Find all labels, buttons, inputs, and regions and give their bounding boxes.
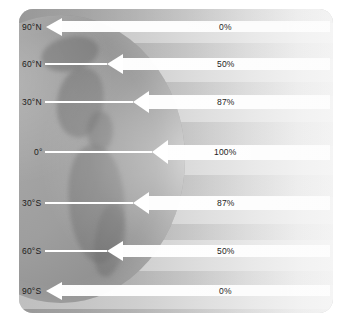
- latitude-label-90S: 90°S: [22, 286, 41, 296]
- sunlight-beam-30S: [149, 196, 330, 210]
- diagram-panel: 90°N60°N30°N0°30°S60°S90°S 0%50%87%100%8…: [19, 9, 333, 313]
- intensity-label-30S: 87%: [217, 198, 235, 208]
- arrow-head-30N: [133, 91, 149, 113]
- latitude-line-30N: [45, 101, 133, 103]
- arrow-head-90S: [46, 282, 62, 300]
- shadow-band: [19, 309, 333, 313]
- latitude-label-60S: 60°S: [22, 246, 41, 256]
- intensity-label-60S: 50%: [217, 246, 235, 256]
- latitude-line-0: [45, 151, 152, 153]
- arrow-head-0: [152, 140, 168, 164]
- latitude-label-60N: 60°N: [22, 59, 42, 69]
- latitude-label-90N: 90°N: [22, 22, 42, 32]
- latitude-line-60S: [45, 250, 107, 252]
- latitude-line-60N: [45, 63, 107, 65]
- sunlight-beam-0: [168, 145, 330, 160]
- latitude-line-30S: [45, 202, 133, 204]
- intensity-label-90N: 0%: [219, 22, 232, 32]
- intensity-label-60N: 50%: [217, 59, 235, 69]
- solar-insolation-diagram: 90°N60°N30°N0°30°S60°S90°S 0%50%87%100%8…: [0, 0, 350, 323]
- intensity-label-30N: 87%: [217, 97, 235, 107]
- arrow-head-30S: [133, 192, 149, 214]
- arrow-head-60N: [107, 54, 123, 74]
- sunlight-beam-90S: [62, 285, 330, 296]
- sunlight-beam-90N: [62, 21, 330, 32]
- intensity-label-90S: 0%: [219, 286, 232, 296]
- sunlight-beam-30N: [149, 95, 330, 109]
- latitude-label-30N: 30°N: [22, 97, 42, 107]
- latitude-label-30S: 30°S: [22, 198, 41, 208]
- arrow-head-60S: [107, 241, 123, 261]
- latitude-label-0: 0°: [34, 147, 43, 157]
- intensity-label-0: 100%: [214, 147, 237, 157]
- arrow-head-90N: [46, 18, 62, 36]
